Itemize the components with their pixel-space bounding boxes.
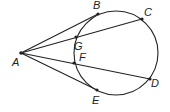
label-A: A [11, 56, 19, 68]
label-B: B [93, 0, 100, 11]
point-F [72, 61, 75, 64]
point-G [74, 35, 77, 38]
tangent-AB [21, 14, 98, 53]
circle [74, 11, 158, 95]
label-F: F [79, 51, 87, 63]
point-A [19, 51, 23, 55]
point-B [96, 12, 99, 15]
point-E [95, 88, 98, 91]
label-D: D [151, 77, 159, 89]
geometry-diagram: A B C G F D E [0, 0, 170, 112]
label-C: C [144, 6, 152, 18]
label-E: E [92, 94, 100, 106]
